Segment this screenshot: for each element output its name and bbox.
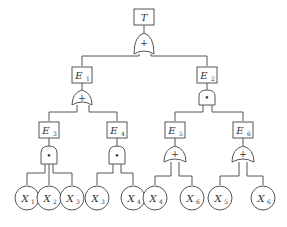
- basic-event-x4-b[interactable]: X 4: [143, 186, 167, 210]
- basic-event-x1[interactable]: X 1: [15, 186, 39, 210]
- svg-text:•: •: [46, 151, 51, 161]
- svg-text:4: 4: [121, 130, 125, 137]
- event-e2[interactable]: E 2: [197, 67, 217, 83]
- svg-text:+: +: [239, 149, 247, 159]
- svg-text:4: 4: [159, 198, 163, 205]
- and-gate-e4: •: [109, 146, 125, 164]
- svg-text:6: 6: [267, 198, 271, 205]
- svg-text:+: +: [140, 38, 148, 48]
- event-e5[interactable]: E 5: [165, 122, 185, 138]
- basic-event-x5[interactable]: X 5: [208, 186, 232, 210]
- svg-text:X: X: [185, 193, 194, 204]
- or-gate-e5: +: [164, 146, 186, 162]
- event-e6[interactable]: E 6: [233, 122, 253, 138]
- svg-text:X: X: [42, 193, 51, 204]
- svg-text:6: 6: [196, 198, 200, 205]
- svg-text:E: E: [109, 125, 118, 136]
- basic-event-x3-a[interactable]: X 3: [60, 186, 84, 210]
- svg-text:X: X: [213, 193, 222, 204]
- svg-text:X: X: [90, 193, 99, 204]
- svg-text:X: X: [20, 193, 29, 204]
- basic-event-x3-b[interactable]: X 3: [85, 186, 109, 210]
- svg-text:X: X: [65, 193, 74, 204]
- svg-text:3: 3: [53, 130, 57, 137]
- and-gate-e3: •: [41, 146, 57, 164]
- or-gate-e6: +: [232, 146, 254, 162]
- or-gate-top: +: [134, 33, 154, 54]
- svg-text:X: X: [148, 193, 157, 204]
- svg-text:E: E: [235, 125, 244, 136]
- fault-tree-diagram: T + E 1 + E 2 • E 3 • E 4 •: [0, 0, 287, 227]
- svg-text:+: +: [171, 149, 179, 159]
- event-e4[interactable]: E 4: [107, 122, 127, 138]
- svg-text:2: 2: [53, 198, 57, 205]
- svg-text:E: E: [167, 125, 176, 136]
- top-event[interactable]: T: [134, 9, 154, 25]
- svg-text:5: 5: [179, 130, 183, 137]
- and-gate-e2: •: [199, 90, 215, 105]
- svg-text:5: 5: [224, 198, 228, 205]
- svg-text:•: •: [204, 93, 209, 103]
- svg-text:•: •: [114, 151, 119, 161]
- basic-event-x6-b[interactable]: X 6: [251, 186, 275, 210]
- event-e3[interactable]: E 3: [39, 122, 59, 138]
- svg-text:4: 4: [137, 198, 141, 205]
- or-gate-e1: +: [72, 90, 92, 105]
- basic-event-x6-a[interactable]: X 6: [180, 186, 204, 210]
- svg-text:6: 6: [247, 130, 251, 137]
- svg-text:E: E: [41, 125, 50, 136]
- svg-text:X: X: [256, 193, 265, 204]
- svg-text:1: 1: [31, 198, 35, 205]
- svg-text:E: E: [74, 70, 83, 81]
- svg-text:E: E: [199, 70, 208, 81]
- basic-event-x4-a[interactable]: X 4: [121, 186, 145, 210]
- event-e1[interactable]: E 1: [72, 67, 92, 83]
- svg-text:2: 2: [211, 75, 215, 82]
- svg-text:3: 3: [76, 198, 80, 205]
- svg-text:X: X: [126, 193, 135, 204]
- svg-text:1: 1: [86, 75, 90, 82]
- svg-text:3: 3: [101, 198, 105, 205]
- basic-event-x2[interactable]: X 2: [37, 186, 61, 210]
- svg-text:+: +: [78, 93, 86, 103]
